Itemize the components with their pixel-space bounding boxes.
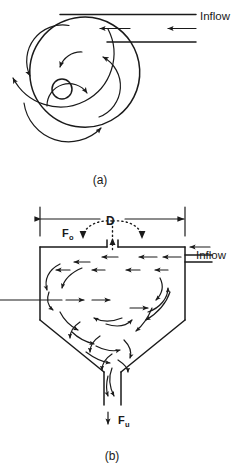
outer-vortex-wall [30,17,140,127]
panel-a-drawing: (a) [0,0,249,200]
inflow-label-b: Inflow [196,249,226,261]
panel-b-caption: (b) [105,449,120,463]
figure-root: (a) Inflow [0,0,249,471]
panel-b-drawing: F o [0,200,249,471]
overflow-label-group: F o [62,227,74,242]
overflow-symbol: F [62,227,69,239]
inflow-label-b-wrap: Inflow [196,245,226,263]
underflow-symbol: F [118,414,125,426]
recirculation-streamlines [0,264,170,396]
overflow-subscript: o [69,233,74,242]
underflow-label-group: F u [108,412,130,429]
diameter-label: D [106,214,115,228]
surface-flow-arrows [56,257,181,270]
panel-a-caption: (a) [93,173,108,187]
inflow-label-a: Inflow [200,10,230,22]
diameter-label-wrap: D [106,211,115,229]
inflow-label-a-wrap: Inflow [200,6,230,24]
underflow-subscript: u [125,420,130,429]
